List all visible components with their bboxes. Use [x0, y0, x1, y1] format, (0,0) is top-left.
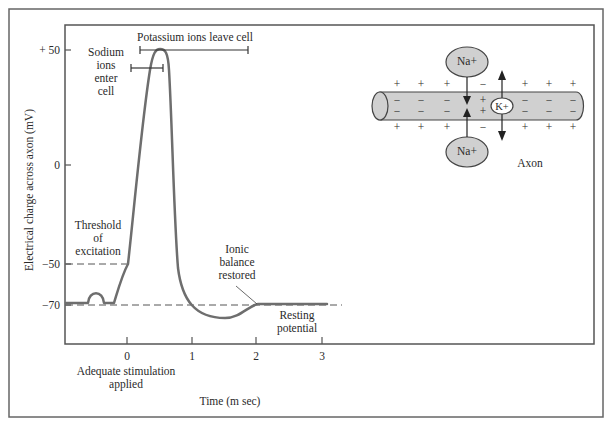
- sodium-label-line: ions: [76, 59, 136, 72]
- plus-sign: +: [568, 78, 578, 91]
- minus-sign: −: [478, 121, 488, 134]
- k-up-arrow-icon: [498, 70, 506, 80]
- plus-sign: +: [520, 78, 530, 91]
- plus-sign: +: [544, 121, 554, 134]
- ionic-label-line: Ionic: [202, 243, 272, 256]
- resting-label-line: potential: [262, 322, 332, 335]
- k-down-arrow-icon: [498, 131, 506, 141]
- plus-sign: +: [478, 105, 488, 118]
- stimulation-label-line: applied: [66, 378, 186, 391]
- plus-sign: +: [544, 78, 554, 91]
- ionic-label-line: balance: [202, 256, 272, 269]
- x-tick-label: 0: [117, 350, 137, 363]
- resting-label-line: Resting: [262, 309, 332, 322]
- na-bottom-label: Na+: [451, 145, 483, 158]
- minus-sign: −: [478, 78, 488, 91]
- minus-sign: −: [442, 105, 452, 118]
- x-tick-label: 1: [182, 350, 202, 363]
- y-tick-label: −50: [26, 258, 60, 271]
- na-top-label: Na+: [451, 55, 483, 68]
- y-tick-label: −70: [26, 299, 60, 312]
- stimulation-label-line: Adequate stimulation: [66, 365, 186, 378]
- plus-sign: +: [392, 78, 402, 91]
- x-tick-label: 2: [246, 350, 266, 363]
- plus-sign: +: [392, 121, 402, 134]
- plus-sign: +: [442, 121, 452, 134]
- y-axis-label: Electrical charge across axon (mV): [23, 109, 35, 271]
- minus-sign: −: [392, 105, 402, 118]
- sodium-label-line: enter: [76, 72, 136, 85]
- k-label: K+: [492, 100, 512, 113]
- sodium-label-line: Sodium: [76, 46, 136, 59]
- threshold-label-line: Threshold: [66, 219, 130, 232]
- plus-sign: +: [416, 121, 426, 134]
- threshold-label-line: of: [66, 232, 130, 245]
- threshold-label-line: excitation: [66, 245, 130, 258]
- x-tick-label: 3: [312, 350, 332, 363]
- minus-sign: −: [544, 105, 554, 118]
- plus-sign: +: [442, 78, 452, 91]
- ionic-balance-pointer: [236, 286, 257, 304]
- potassium-label: Potassium ions leave cell: [130, 31, 260, 44]
- plus-sign: +: [416, 78, 426, 91]
- minus-sign: −: [520, 105, 530, 118]
- y-ticks: [65, 50, 71, 305]
- axon-cap: [372, 92, 388, 120]
- potassium-interval-bar: [140, 46, 248, 54]
- plus-sign: +: [520, 121, 530, 134]
- sodium-label-line: cell: [76, 85, 136, 98]
- minus-sign: −: [416, 105, 426, 118]
- plus-sign: +: [568, 121, 578, 134]
- x-axis-label: Time (m sec): [170, 395, 290, 408]
- ionic-label-line: restored: [202, 269, 272, 282]
- y-tick-label: + 50: [26, 44, 60, 57]
- minus-sign: −: [568, 105, 578, 118]
- plot-frame: [65, 25, 594, 344]
- y-tick-label: 0: [26, 159, 60, 172]
- x-ticks: [127, 337, 322, 344]
- axon-label: Axon: [510, 157, 550, 170]
